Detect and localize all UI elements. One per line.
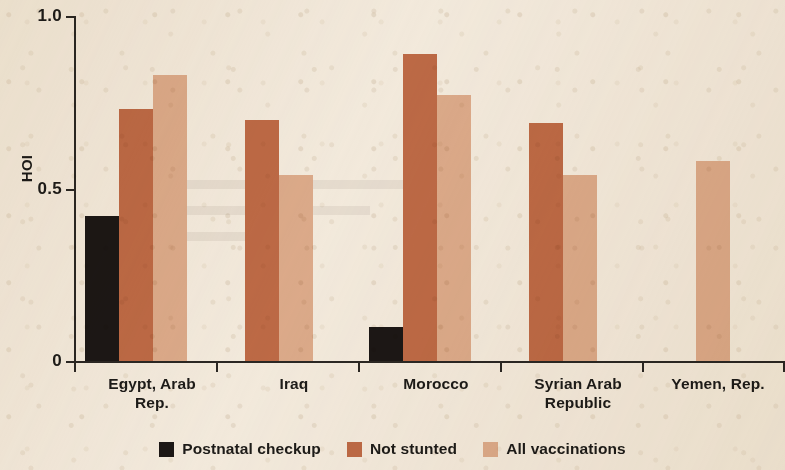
x-category-label-morocco: Morocco — [368, 374, 504, 393]
x-category-label-egypt: Egypt, ArabRep. — [84, 374, 220, 412]
legend-swatch-postnatal-checkup — [159, 442, 174, 457]
legend-item-not-stunted: Not stunted — [347, 440, 457, 458]
bar-syria-all-vaccinations — [563, 175, 597, 361]
x-category-label-yemen: Yemen, Rep. — [648, 374, 785, 393]
legend-swatch-all-vaccinations — [483, 442, 498, 457]
x-category-label-syria: Syrian ArabRepublic — [510, 374, 646, 412]
bar-egypt-all-vaccinations — [153, 75, 187, 361]
bar-egypt-postnatal-checkup — [85, 216, 119, 361]
x-group-tick-4 — [642, 363, 644, 372]
x-category-label-iraq: Iraq — [226, 374, 362, 393]
bar-egypt-not-stunted — [119, 109, 153, 361]
legend-label-all-vaccinations: All vaccinations — [506, 440, 626, 458]
bar-morocco-not-stunted — [403, 54, 437, 361]
legend-label-postnatal-checkup: Postnatal checkup — [182, 440, 321, 458]
x-axis-line — [74, 361, 785, 363]
x-group-tick-2 — [358, 363, 360, 372]
chart-legend: Postnatal checkup Not stunted All vaccin… — [0, 440, 785, 458]
legend-item-postnatal-checkup: Postnatal checkup — [159, 440, 321, 458]
bar-morocco-all-vaccinations — [437, 95, 471, 361]
x-group-tick-1 — [216, 363, 218, 372]
legend-item-all-vaccinations: All vaccinations — [483, 440, 626, 458]
bar-syria-not-stunted — [529, 123, 563, 361]
bar-morocco-postnatal-checkup — [369, 327, 403, 362]
x-group-tick-0 — [74, 363, 76, 372]
legend-label-not-stunted: Not stunted — [370, 440, 457, 458]
plot-area — [0, 0, 785, 361]
hoi-bar-chart: HOI 1.0 0.5 0 Egypt, Arab — [0, 0, 785, 470]
legend-swatch-not-stunted — [347, 442, 362, 457]
x-group-tick-3 — [500, 363, 502, 372]
bar-yemen-all-vaccinations — [696, 161, 730, 361]
bar-iraq-all-vaccinations — [279, 175, 313, 361]
bar-iraq-not-stunted — [245, 120, 279, 362]
